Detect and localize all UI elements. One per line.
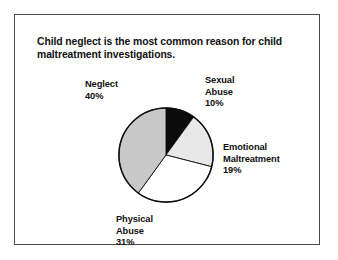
slice-label-neglect: Neglect 40% xyxy=(85,79,118,102)
slice-label-sexual-abuse: Sexual Abuse 10% xyxy=(205,75,234,110)
slice-label-physical-line2: Abuse xyxy=(116,226,144,236)
slice-label-emotional-line2: Maltreatment xyxy=(223,154,280,164)
slice-label-neglect-name: Neglect xyxy=(85,79,118,89)
slice-label-sexual-abuse-line2: Abuse xyxy=(205,87,233,97)
figure-frame: Child neglect is the most common reason … xyxy=(14,14,320,245)
slice-label-physical-pct: 31% xyxy=(116,237,153,249)
slice-label-neglect-pct: 40% xyxy=(85,91,118,103)
slice-label-emotional-pct: 19% xyxy=(223,165,280,177)
pie-chart-svg xyxy=(118,107,214,203)
page-title: Child neglect is the most common reason … xyxy=(37,35,303,61)
slice-label-sexual-abuse-pct: 10% xyxy=(205,98,234,110)
slice-label-physical-line1: Physical xyxy=(116,214,153,224)
slice-label-physical-abuse: Physical Abuse 31% xyxy=(116,214,153,249)
slice-label-emotional-maltreatment: Emotional Maltreatment 19% xyxy=(223,142,280,177)
pie-chart xyxy=(118,107,214,203)
slice-label-emotional-line1: Emotional xyxy=(223,142,267,152)
slice-label-sexual-abuse-line1: Sexual xyxy=(205,75,234,85)
